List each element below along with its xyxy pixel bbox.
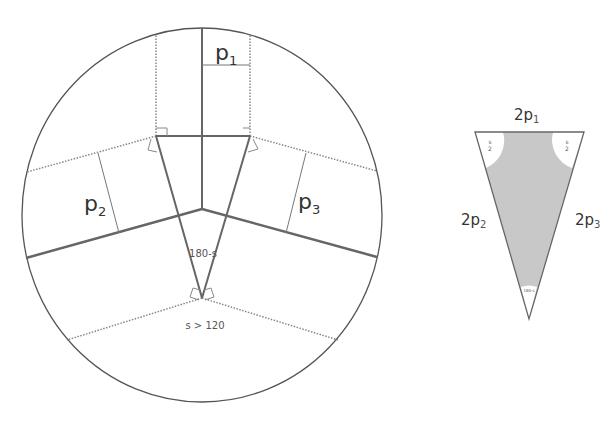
label-2p3: 2p3	[575, 211, 600, 230]
label-corner-right-num: s	[565, 138, 568, 145]
label-p1: p1	[215, 40, 237, 68]
label-2p1: 2p1	[514, 106, 539, 125]
label-angle-apex: 180-s	[189, 248, 217, 259]
label-p2: p2	[84, 191, 106, 219]
label-apex-angle: 180-s	[523, 288, 534, 293]
label-p3: p3	[298, 189, 320, 217]
diagram-canvas: p1 p2 p3 180-s s > 120 2p1 2p2 2p3 s 2 s…	[0, 0, 610, 424]
label-corner-left-num: s	[488, 138, 491, 145]
label-2p2: 2p2	[461, 211, 486, 230]
triangle-figure: 2p1 2p2 2p3 s 2 s 2 180-s	[461, 106, 600, 319]
label-condition: s > 120	[185, 320, 224, 331]
circle-figure: p1 p2 p3 180-s s > 120	[22, 28, 382, 402]
label-corner-left-den: 2	[488, 145, 492, 152]
label-corner-right-den: 2	[565, 145, 569, 152]
